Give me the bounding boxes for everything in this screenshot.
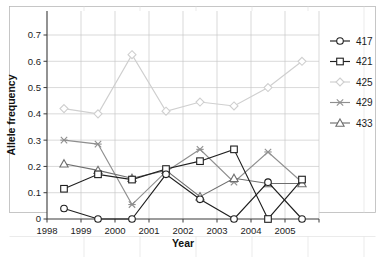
xtick-label-0: 1998: [36, 225, 57, 236]
legend-425-marker-0: [336, 78, 344, 86]
legend-417-marker-0: [337, 38, 344, 45]
series-417-marker-6: [265, 179, 272, 186]
series-417-marker-4: [197, 196, 204, 203]
series-421-marker-0: [61, 185, 68, 192]
ytick-label-6: 0.6: [28, 56, 41, 67]
ytick-label-1: 0.1: [28, 187, 41, 198]
ytick-label-3: 0.3: [28, 135, 41, 146]
legend-item-417[interactable]: 417: [330, 36, 373, 47]
series-417-marker-2: [129, 216, 136, 223]
series-421-marker-6: [265, 216, 272, 223]
legend-item-433[interactable]: 433: [330, 118, 373, 129]
series-417-marker-3: [163, 171, 170, 178]
ytick-label-0: 0: [36, 213, 41, 224]
series-421-marker-1: [95, 171, 102, 178]
xtick-label-2: 2000: [104, 225, 125, 236]
legend-label-421: 421: [356, 56, 373, 67]
series-421-marker-2: [129, 176, 136, 183]
legend-421-marker-0: [337, 58, 344, 65]
ytick-label-5: 0.5: [28, 82, 41, 93]
series-417-marker-7: [299, 216, 306, 223]
series-421-marker-5: [231, 146, 238, 153]
xtick-label-3: 2001: [138, 225, 159, 236]
ytick-label-2: 0.2: [28, 161, 41, 172]
legend-label-417: 417: [356, 36, 373, 47]
series-417-marker-5: [231, 216, 238, 223]
legend-label-425: 425: [356, 77, 373, 88]
ytick-label-4: 0.4: [28, 108, 41, 119]
y-axis-title: Allele frequency: [5, 74, 17, 155]
legend-label-429: 429: [356, 97, 373, 108]
xtick-label-7: 2005: [274, 225, 295, 236]
series-421-marker-4: [197, 158, 204, 165]
series-417-marker-1: [95, 216, 102, 223]
legend-item-429[interactable]: 429: [330, 97, 373, 108]
xtick-label-5: 2003: [206, 225, 227, 236]
xtick-label-1: 1999: [70, 225, 91, 236]
xtick-label-4: 2002: [172, 225, 193, 236]
line-chart: 00.10.20.30.40.50.60.7199819992000200120…: [0, 0, 392, 258]
legend-item-421[interactable]: 421: [330, 56, 373, 67]
legend-item-425[interactable]: 425: [330, 77, 373, 88]
x-axis-title: Year: [172, 237, 194, 249]
legend-label-433: 433: [356, 118, 373, 129]
xtick-label-6: 2004: [240, 225, 261, 236]
ytick-label-7: 0.7: [28, 29, 41, 40]
series-421-marker-7: [299, 176, 306, 183]
legend-429-marker-0: [336, 99, 343, 105]
series-417-marker-0: [61, 205, 68, 212]
chart-container: 00.10.20.30.40.50.60.7199819992000200120…: [0, 0, 392, 258]
